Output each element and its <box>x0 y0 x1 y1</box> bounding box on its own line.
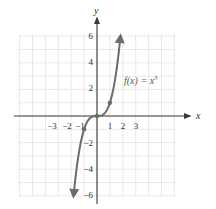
x-axis-label: x <box>195 110 201 121</box>
point-marker <box>108 101 112 105</box>
y-tick-label: 6 <box>89 31 94 41</box>
x-tick-label: 2 <box>121 121 126 131</box>
function-label: f(x) = x3 <box>124 74 158 87</box>
x-tick-label: −3 <box>47 121 57 131</box>
function-label-exponent: 3 <box>153 74 158 82</box>
point-marker <box>95 114 99 118</box>
x-tick-label: 3 <box>134 121 139 131</box>
y-tick-label: 4 <box>89 57 94 67</box>
point-marker <box>82 127 86 131</box>
x-tick-label: 1 <box>108 121 113 131</box>
y-tick-label: −2 <box>83 138 93 148</box>
x-tick-labels: −3 −2 −1 1 2 3 <box>47 121 139 131</box>
cubic-function-graph: x y −3 −2 −1 1 2 3 6 4 2 −2 −4 −6 f(x) =… <box>0 0 216 209</box>
y-tick-label: −6 <box>83 190 93 200</box>
y-axis-label: y <box>93 5 99 16</box>
y-tick-label: 2 <box>89 83 94 93</box>
function-label-base: f(x) = x <box>124 75 155 87</box>
y-tick-label: −4 <box>83 164 93 174</box>
x-tick-label: −2 <box>62 121 72 131</box>
